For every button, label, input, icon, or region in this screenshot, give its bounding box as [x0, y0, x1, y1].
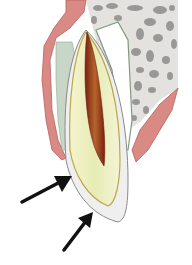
upper-arrow — [22, 176, 72, 202]
tooth-illustration — [0, 0, 192, 265]
tooth-diagram — [0, 0, 192, 265]
lower-arrow — [64, 212, 93, 250]
